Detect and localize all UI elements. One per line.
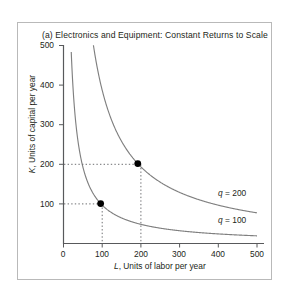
curve-label-q100-value: = 100 (225, 215, 246, 225)
figure-panel: (a) Electronics and Equipment: Constant … (17, 22, 272, 280)
curve-label-q200-symbol: q (218, 188, 223, 198)
chart-svg (18, 23, 273, 281)
plot-area (18, 23, 273, 281)
x-axis-text: , Units of labor per year (119, 261, 206, 271)
x-tick-label-500: 500 (244, 249, 270, 259)
x-tick-label-100: 100 (89, 249, 115, 259)
x-tick-label-400: 400 (205, 249, 231, 259)
x-tick-label-200: 200 (128, 249, 154, 259)
data-point-marker-q200 (134, 160, 141, 167)
y-axis-label: K, Units of capital per year (27, 34, 37, 214)
y-tick-marks (59, 46, 63, 204)
guide-lines-q100 (64, 204, 102, 243)
curve-label-q200: q = 200 (218, 188, 246, 198)
curve-label-q200-value: = 200 (225, 188, 246, 198)
y-axis-symbol: K (27, 168, 37, 174)
x-tick-marks (64, 244, 258, 248)
curve-label-q100-symbol: q (218, 215, 223, 225)
x-axis-label: L, Units of labor per year (114, 261, 206, 271)
data-point-marker-q100 (97, 200, 104, 207)
curve-label-q100: q = 100 (218, 215, 246, 225)
x-tick-label-0: 0 (50, 249, 76, 259)
x-tick-label-300: 300 (166, 249, 192, 259)
y-axis-text: , Units of capital per year (27, 75, 37, 168)
